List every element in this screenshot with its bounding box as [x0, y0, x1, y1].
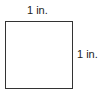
top-side-length-label: 1 in.: [27, 4, 48, 16]
right-side-length-label: 1 in.: [77, 48, 98, 60]
square-shape: [5, 21, 73, 89]
